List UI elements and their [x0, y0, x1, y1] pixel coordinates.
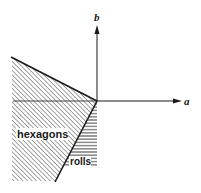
- a-axis-arrowhead-icon: [173, 99, 182, 104]
- hexagons-label: hexagons: [17, 128, 68, 140]
- a-axis-label: a: [184, 95, 190, 107]
- b-axis-arrowhead-icon: [95, 25, 100, 34]
- phase-diagram: b a hexagons rolls: [0, 0, 201, 193]
- b-axis-label: b: [94, 11, 100, 23]
- rolls-label: rolls: [70, 156, 92, 167]
